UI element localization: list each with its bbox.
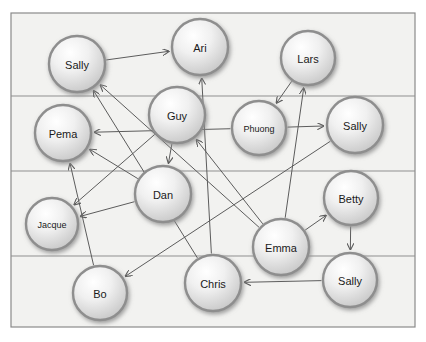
node-label-chris: Chris	[200, 278, 226, 290]
node-label-phuong: Phuong	[243, 124, 274, 134]
node-label-sally_tl: Sally	[65, 59, 89, 71]
node-dan[interactable]: Dan	[135, 166, 191, 222]
node-sally_tl[interactable]: Sally	[49, 36, 105, 92]
node-label-bo: Bo	[93, 288, 106, 300]
node-label-ari: Ari	[193, 42, 206, 54]
network-graph: SallyAriLarsGuyPhuongSallyPemaDanBettyJa…	[0, 0, 426, 342]
node-jacque[interactable]: Jacque	[26, 198, 78, 250]
node-ari[interactable]: Ari	[172, 19, 228, 75]
node-label-emma: Emma	[265, 242, 298, 254]
node-lars[interactable]: Lars	[281, 31, 335, 85]
node-guy[interactable]: Guy	[149, 87, 205, 143]
node-bo[interactable]: Bo	[73, 266, 127, 320]
node-label-pema: Pema	[49, 128, 79, 140]
node-label-jacque: Jacque	[37, 220, 66, 230]
node-sally_b[interactable]: Sally	[323, 253, 377, 307]
node-label-sally_r: Sally	[343, 120, 367, 132]
node-label-guy: Guy	[167, 110, 188, 122]
node-phuong[interactable]: Phuong	[232, 101, 286, 155]
node-emma[interactable]: Emma	[253, 219, 309, 275]
node-chris[interactable]: Chris	[185, 255, 241, 311]
node-betty[interactable]: Betty	[324, 171, 378, 225]
node-pema[interactable]: Pema	[35, 105, 91, 161]
node-sally_r[interactable]: Sally	[327, 97, 383, 153]
node-label-sally_b: Sally	[338, 275, 362, 287]
node-label-dan: Dan	[153, 189, 173, 201]
node-label-betty: Betty	[338, 193, 364, 205]
node-label-lars: Lars	[297, 53, 319, 65]
diagram-canvas: SallyAriLarsGuyPhuongSallyPemaDanBettyJa…	[0, 0, 426, 342]
